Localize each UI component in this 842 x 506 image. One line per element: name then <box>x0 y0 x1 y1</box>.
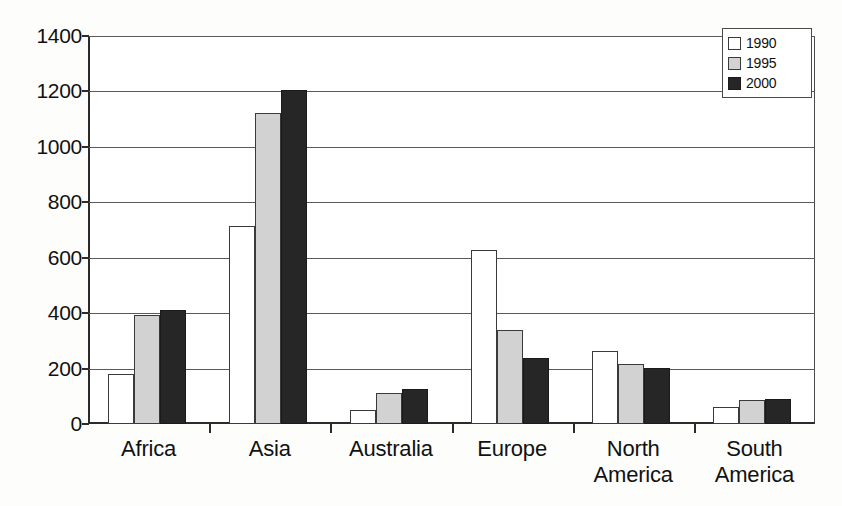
bar-europe-1990 <box>471 250 497 424</box>
bar-group <box>471 36 549 424</box>
legend-label-1995: 1995 <box>746 56 776 70</box>
bar-group <box>350 36 428 424</box>
y-tick: 200 <box>0 358 82 379</box>
y-tick: 1400 <box>0 25 82 46</box>
bar-europe-2000 <box>523 358 549 424</box>
y-tick-label: 400 <box>16 302 82 323</box>
y-tick-label: 200 <box>16 358 82 379</box>
y-tick-label: 1200 <box>16 80 82 101</box>
legend-label-2000: 2000 <box>746 76 776 90</box>
bar-chart: 0200400600800100012001400 AfricaAsiaAust… <box>0 0 842 506</box>
y-tick: 400 <box>0 302 82 323</box>
x-axis-label-line: Africa <box>88 436 209 462</box>
x-tick-mark <box>330 424 332 433</box>
x-axis-label-line: North <box>573 436 694 462</box>
x-axis-label-line: Australia <box>330 436 451 462</box>
bar-asia-2000 <box>281 90 307 424</box>
y-tick-label: 1400 <box>16 25 82 46</box>
y-tick: 1200 <box>0 80 82 101</box>
bar-africa-2000 <box>160 310 186 424</box>
y-tick-label: 1000 <box>16 136 82 157</box>
bar-africa-1995 <box>134 315 160 424</box>
bar-group <box>592 36 670 424</box>
bar-asia-1995 <box>255 113 281 424</box>
legend-label-1990: 1990 <box>746 36 776 50</box>
x-axis-label-asia: Asia <box>209 436 330 462</box>
x-axis-label-line: America <box>573 462 694 488</box>
bar-south-america-1990 <box>713 407 739 424</box>
bar-africa-1990 <box>108 374 134 424</box>
bar-australia-1990 <box>350 410 376 424</box>
bar-europe-1995 <box>497 330 523 424</box>
x-tick-mark <box>452 424 454 433</box>
bar-group <box>229 36 307 424</box>
bar-north-america-1995 <box>618 364 644 424</box>
bar-australia-1995 <box>376 393 402 424</box>
y-tick-label: 600 <box>16 247 82 268</box>
bar-australia-2000 <box>402 389 428 424</box>
bar-group <box>108 36 186 424</box>
x-axis-label-line: America <box>694 462 815 488</box>
y-tick: 0 <box>0 413 82 434</box>
x-axis-label-south-america: SouthAmerica <box>694 436 815 488</box>
bars-layer <box>88 36 815 424</box>
legend: 1990 1995 2000 <box>722 28 812 98</box>
y-tick-label: 800 <box>16 191 82 212</box>
white-square-icon <box>728 37 741 50</box>
gray-square-icon <box>728 57 741 70</box>
bar-south-america-1995 <box>739 400 765 424</box>
x-axis-label-australia: Australia <box>330 436 451 462</box>
y-tick: 1000 <box>0 136 82 157</box>
bar-asia-1990 <box>229 226 255 424</box>
bar-north-america-1990 <box>592 351 618 424</box>
x-axis-label-line: Europe <box>452 436 573 462</box>
x-axis-label-line: Asia <box>209 436 330 462</box>
x-tick-mark <box>694 424 696 433</box>
bar-north-america-2000 <box>644 368 670 424</box>
y-tick: 600 <box>0 247 82 268</box>
x-axis-label-africa: Africa <box>88 436 209 462</box>
x-axis-label-line: South <box>694 436 815 462</box>
bar-south-america-2000 <box>765 399 791 424</box>
legend-item-1995: 1995 <box>728 53 806 73</box>
x-tick-mark <box>209 424 211 433</box>
x-axis-label-europe: Europe <box>452 436 573 462</box>
legend-item-1990: 1990 <box>728 33 806 53</box>
x-tick-mark <box>573 424 575 433</box>
x-axis-label-north-america: NorthAmerica <box>573 436 694 488</box>
black-square-icon <box>728 77 741 90</box>
y-tick-label: 0 <box>16 413 82 434</box>
legend-item-2000: 2000 <box>728 73 806 93</box>
y-tick: 800 <box>0 191 82 212</box>
